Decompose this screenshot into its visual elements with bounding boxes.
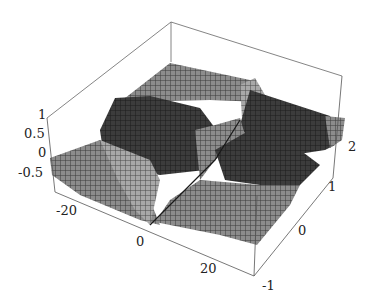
x-tick-20: 20 bbox=[200, 262, 217, 275]
z-tick-neg0.5: -0.5 bbox=[18, 166, 43, 179]
x-tick-0: 0 bbox=[136, 235, 144, 248]
y-tick-neg1: -1 bbox=[262, 279, 275, 292]
y-tick-1: 1 bbox=[328, 180, 336, 193]
y-tick-2: 2 bbox=[348, 140, 356, 153]
surface-plot bbox=[0, 0, 377, 298]
z-tick-0.5: 0.5 bbox=[24, 127, 45, 140]
surface-front-plane bbox=[155, 180, 300, 245]
x-tick-neg20: -20 bbox=[56, 204, 77, 217]
z-tick-1: 1 bbox=[38, 108, 46, 121]
y-tick-0: 0 bbox=[298, 224, 306, 237]
z-tick-0: 0 bbox=[38, 146, 46, 159]
